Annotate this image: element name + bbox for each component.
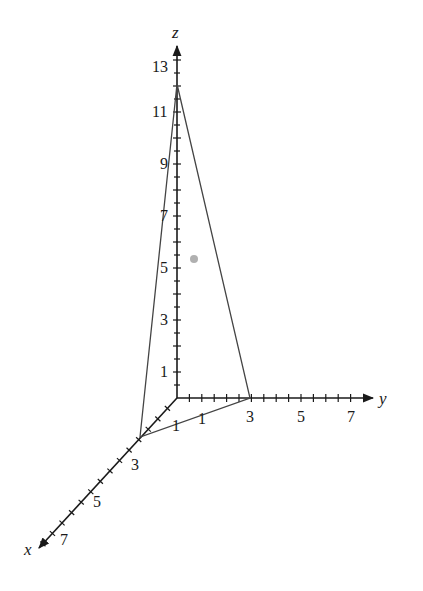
x-tick-label: 5: [93, 493, 101, 510]
y-tick-label: 5: [297, 408, 305, 425]
y-axis: [177, 394, 373, 402]
x-tick-label: 7: [60, 531, 68, 548]
y-axis-label: y: [377, 389, 387, 408]
z-tick-label: 13: [152, 58, 168, 75]
z-tick-label: 11: [152, 103, 167, 120]
z-tick-label: 7: [160, 207, 168, 224]
z-tick-label: 3: [160, 311, 168, 328]
z-tick-label: 1: [160, 363, 168, 380]
x-axis-label: x: [23, 540, 32, 559]
y-tick-label: 3: [246, 408, 254, 425]
z-tick-label: 9: [160, 155, 168, 172]
y-tick-label: 1: [198, 410, 206, 427]
y-tick-label: 7: [347, 408, 355, 425]
3d-axes-diagram: z y x 1 3 5 7 9 11 13 1 3 5 7 1 3 5 7: [0, 0, 423, 591]
x-tick-label: 3: [131, 456, 139, 473]
z-axis-label: z: [171, 23, 179, 42]
z-tick-label: 5: [160, 259, 168, 276]
x-tick-label: 1: [172, 417, 180, 434]
gray-point: [190, 255, 198, 263]
x-axis: [39, 398, 177, 548]
